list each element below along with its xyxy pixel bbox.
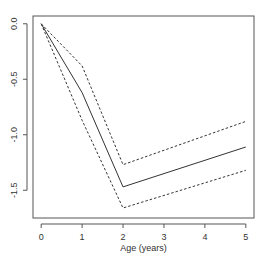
y-tick-label: -1.5 — [9, 182, 19, 198]
plot-frame — [33, 16, 254, 218]
x-tick-label: 0 — [39, 232, 44, 242]
series-upper-bound-line — [41, 24, 246, 165]
y-tick-label: 0.0 — [9, 18, 19, 31]
line-chart: 012345 0.0-0.5-1.0-1.5 Age (years) — [0, 0, 268, 265]
x-tick-label: 2 — [121, 232, 126, 242]
series-layer — [41, 24, 246, 208]
x-tick-label: 3 — [161, 232, 166, 242]
x-axis-title: Age (years) — [120, 243, 167, 253]
y-tick-label: -0.5 — [9, 72, 19, 88]
y-tick-label: -1.0 — [9, 127, 19, 143]
y-axis: 0.0-0.5-1.0-1.5 — [9, 18, 27, 198]
plot-area — [33, 16, 254, 218]
x-tick-label: 4 — [202, 232, 207, 242]
x-tick-label: 1 — [80, 232, 85, 242]
x-tick-label: 5 — [243, 232, 248, 242]
series-estimate-line — [41, 24, 246, 187]
x-axis: 012345 — [39, 224, 249, 242]
